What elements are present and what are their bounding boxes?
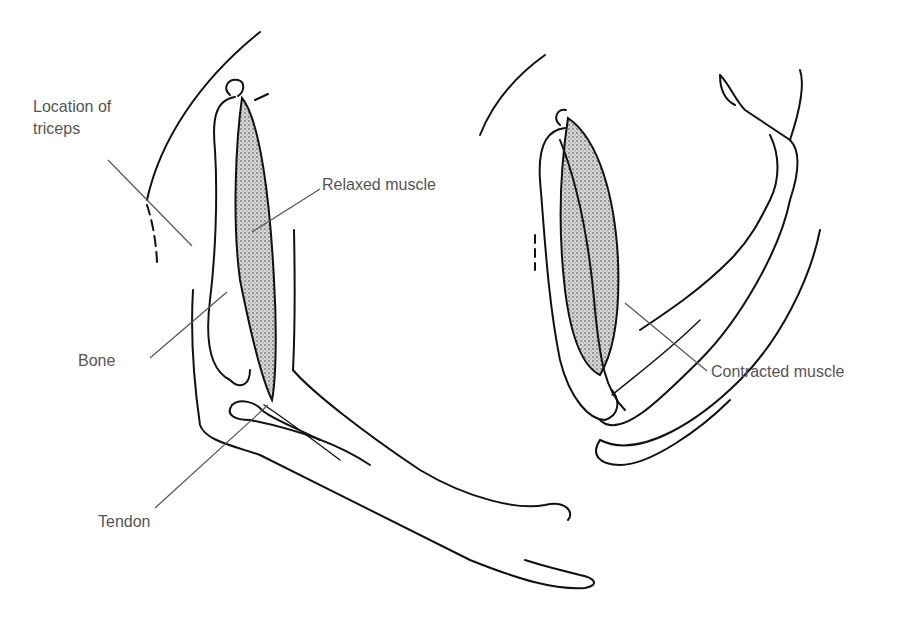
label-tendon: Tendon xyxy=(98,512,151,532)
label-bone: Bone xyxy=(78,351,115,371)
label-location-of-triceps-line2: triceps xyxy=(33,119,80,139)
flexed-arm xyxy=(480,55,820,465)
label-relaxed-muscle: Relaxed muscle xyxy=(322,175,436,195)
label-contracted-muscle: Contracted muscle xyxy=(711,362,844,382)
label-location-of-triceps-line1: Location of xyxy=(33,97,111,117)
relaxed-muscle xyxy=(236,98,276,400)
contracted-muscle xyxy=(561,118,619,375)
leader-lines xyxy=(108,160,707,508)
extended-arm xyxy=(147,32,594,588)
